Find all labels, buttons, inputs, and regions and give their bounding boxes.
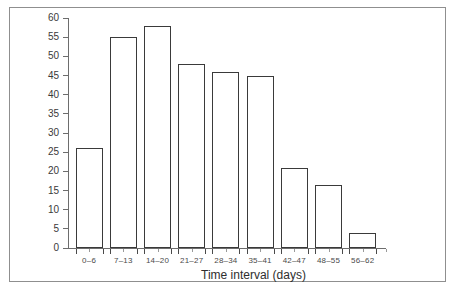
y-axis-tick-label: 5 [29, 224, 59, 234]
y-axis-tick [63, 209, 68, 210]
y-axis-tick-label: 10 [29, 205, 59, 215]
y-axis-tick-label: 40 [29, 90, 59, 100]
x-axis-minor-tick [363, 249, 364, 252]
x-axis-minor-tick [386, 249, 387, 252]
x-axis-minor-tick [158, 249, 159, 252]
x-axis-tick [144, 249, 145, 254]
x-axis-tick [308, 249, 309, 254]
histogram-bar [144, 26, 171, 248]
y-axis-tick-label: 0 [29, 243, 59, 253]
y-axis-tick [63, 171, 68, 172]
y-axis-tick-label: 35 [29, 109, 59, 119]
y-axis-tick-label: 30 [29, 128, 59, 138]
histogram-bar [281, 168, 308, 249]
y-axis-tick [63, 133, 68, 134]
x-axis-tick [178, 249, 179, 254]
x-axis-tick [76, 249, 77, 254]
x-axis-tick [349, 249, 350, 254]
y-axis-line [68, 18, 69, 249]
y-axis-tick [63, 56, 68, 57]
x-axis-minor-tick [260, 249, 261, 252]
histogram-bar [178, 64, 205, 248]
y-axis-tick [63, 37, 68, 38]
x-axis-tick [239, 249, 240, 254]
x-axis-minor-tick [123, 249, 124, 252]
x-axis-minor-tick [294, 249, 295, 252]
y-axis-tick [63, 190, 68, 191]
x-axis-tick [103, 249, 104, 254]
y-axis-tick-label: 20 [29, 166, 59, 176]
y-axis-tick [63, 152, 68, 153]
x-axis-tick [110, 249, 111, 254]
histogram-bar [76, 148, 103, 248]
y-axis-tick [63, 248, 68, 249]
x-axis-minor-tick [89, 249, 90, 252]
y-axis-tick-label: 55 [29, 32, 59, 42]
x-axis-tick [212, 249, 213, 254]
histogram-bar [349, 233, 376, 248]
y-axis-tick-label: 60 [29, 13, 59, 23]
x-axis-title: Time interval (days) [0, 268, 437, 282]
x-axis-tick [247, 249, 248, 254]
x-axis-minor-tick [226, 249, 227, 252]
y-axis-tick-label: 50 [29, 51, 59, 61]
y-axis-tick [63, 228, 68, 229]
histogram-bar [247, 76, 274, 249]
x-axis-category-label: 56–62 [337, 256, 389, 265]
x-axis-tick [137, 249, 138, 254]
x-axis-tick [342, 249, 343, 254]
x-axis-line [68, 248, 386, 249]
y-axis-tick [63, 94, 68, 95]
y-axis-tick [63, 18, 68, 19]
histogram-bar [315, 185, 342, 248]
x-axis-title-label: Time interval (days) [131, 268, 306, 282]
x-axis-minor-tick [192, 249, 193, 252]
x-axis-tick [281, 249, 282, 254]
y-axis-tick [63, 75, 68, 76]
y-axis-tick [63, 113, 68, 114]
y-axis-tick-label: 45 [29, 71, 59, 81]
x-axis-minor-tick [329, 249, 330, 252]
x-axis-tick [376, 249, 377, 254]
x-axis-tick [315, 249, 316, 254]
histogram-bar [110, 37, 137, 248]
y-axis-tick-label: 15 [29, 186, 59, 196]
histogram-bar [212, 72, 239, 248]
x-axis-tick [205, 249, 206, 254]
x-axis-tick [171, 249, 172, 254]
y-axis-tick-label: 25 [29, 147, 59, 157]
x-axis-tick [274, 249, 275, 254]
histogram-figure: 051015202530354045505560 0–67–1314–2021–… [0, 0, 455, 301]
